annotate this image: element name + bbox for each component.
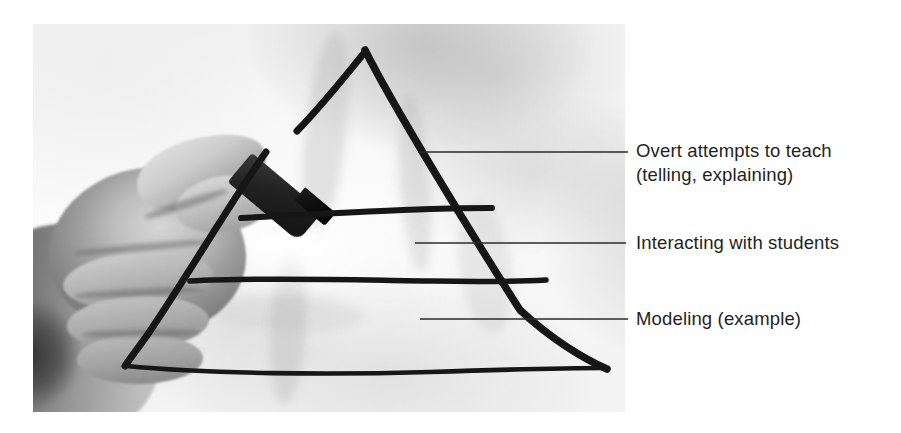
callout-labels: Overt attempts to teach (telling, explai… [0, 0, 901, 433]
figure-root: Overt attempts to teach (telling, explai… [0, 0, 901, 433]
callout-line: Overt attempts to teach [636, 139, 832, 163]
callout-interacting: Interacting with students [636, 231, 839, 255]
callout-line: Modeling (example) [636, 307, 801, 331]
callout-line: (telling, explaining) [636, 163, 832, 187]
callout-modeling: Modeling (example) [636, 307, 801, 331]
callout-overt-attempts: Overt attempts to teach (telling, explai… [636, 139, 832, 187]
callout-line: Interacting with students [636, 231, 839, 255]
